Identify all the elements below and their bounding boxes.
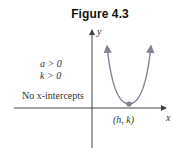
parabola-right-arm bbox=[129, 46, 151, 104]
figure: Figure 4.3 y x a > 0 k > 0 No x-intercep… bbox=[0, 0, 178, 157]
vertex-point bbox=[126, 101, 131, 106]
parabola-graph: y x a > 0 k > 0 No x-intercepts (h, k) bbox=[0, 0, 178, 157]
k-condition-label: k > 0 bbox=[40, 70, 61, 81]
x-axis-label: x bbox=[165, 112, 171, 123]
vertex-label: (h, k) bbox=[113, 114, 135, 126]
intercepts-label: No x-intercepts bbox=[22, 90, 84, 101]
a-condition-label: a > 0 bbox=[40, 58, 62, 69]
y-axis-label: y bbox=[96, 26, 102, 37]
parabola-left-arm bbox=[107, 46, 129, 104]
